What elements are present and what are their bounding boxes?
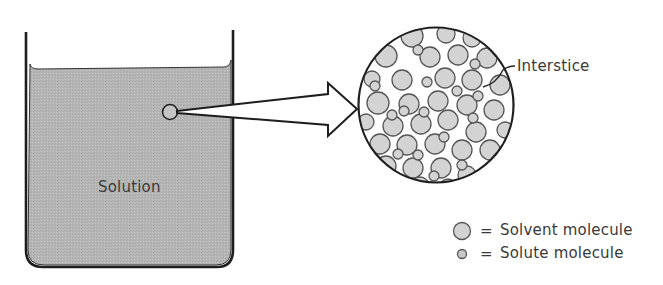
interstice-label: Interstice (517, 57, 590, 75)
legend-solvent-equals: = (480, 222, 493, 240)
solution-liquid (28, 60, 231, 265)
solvent-molecule-icon (454, 223, 471, 240)
legend-solute-equals: = (480, 245, 493, 263)
sample-region-circle (163, 105, 178, 120)
solution-diagram (0, 0, 663, 285)
solute-molecule-icon (458, 250, 467, 259)
legend-solvent-label: Solvent molecule (500, 221, 633, 239)
solution-label: Solution (98, 178, 161, 196)
legend-solute-label: Solute molecule (500, 244, 624, 262)
